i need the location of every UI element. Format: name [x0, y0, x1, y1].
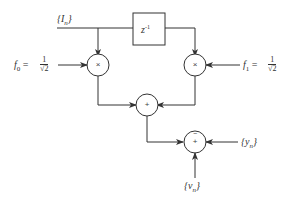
v-close: } [196, 180, 200, 191]
multiply-symbol-1: × [190, 60, 200, 70]
y-close: } [253, 136, 257, 147]
f0-fraction: 1 √2 [40, 56, 48, 73]
noise-v-label: {vn} [184, 181, 200, 194]
output-y-label: {yn} [241, 137, 257, 150]
delay-exponent: -1 [145, 24, 150, 30]
f0-denominator: √2 [40, 65, 48, 73]
input-sequence-label: {In} [57, 14, 72, 27]
coefficient-f1-label: f1 = [243, 60, 257, 73]
f1-equals: = [252, 59, 258, 70]
f0-subscript: 0 [17, 65, 21, 73]
delay-label: z-1 [141, 24, 150, 35]
sum-symbol-1: + [142, 100, 152, 110]
minus-sign: − [190, 129, 200, 139]
multiply-symbol-0: × [93, 60, 103, 70]
f1-fraction: 1 √2 [268, 56, 276, 73]
f0-equals: = [23, 59, 29, 70]
coefficient-f0-label: f0 = [14, 60, 28, 73]
f1-subscript: 1 [246, 65, 250, 73]
input-label-close: } [68, 13, 72, 24]
f1-denominator: √2 [268, 65, 276, 73]
